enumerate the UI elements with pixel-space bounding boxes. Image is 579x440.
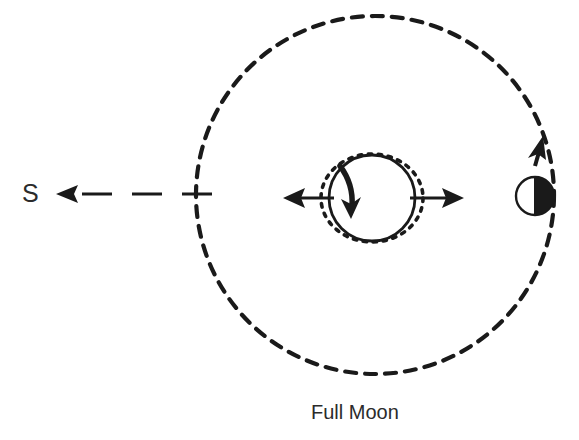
- sun-label: S: [22, 179, 39, 207]
- diagram-canvas: S Full: [0, 0, 579, 440]
- moon-symbol: [516, 177, 554, 215]
- full-moon-tide-diagram: S Full: [0, 0, 579, 440]
- figure-caption: Full Moon: [311, 401, 399, 423]
- background: [0, 0, 579, 440]
